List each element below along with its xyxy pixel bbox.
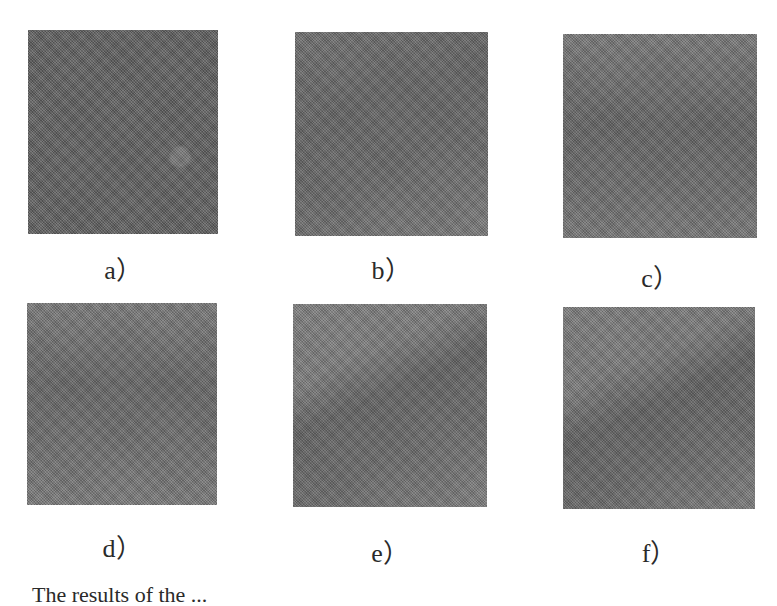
panel-e-band [293, 304, 487, 507]
panel-b [295, 32, 488, 236]
panel-a-label: a） [104, 258, 142, 284]
panel-f-label: f） [642, 541, 677, 567]
panel-e [293, 304, 487, 507]
panel-d [27, 303, 217, 505]
panel-f [563, 307, 755, 509]
panel-b-label: b） [372, 258, 411, 284]
panel-e-label: e） [371, 541, 409, 567]
panel-c-band [563, 34, 757, 238]
panel-a [28, 30, 218, 234]
panel-d-label: d） [103, 536, 142, 562]
panel-a-feature [28, 30, 218, 234]
figure-caption: The results of the ... [32, 582, 207, 606]
panel-c-label: c） [641, 266, 679, 292]
panel-d-band [27, 303, 217, 505]
panel-c [563, 34, 757, 238]
panel-f-band [563, 307, 755, 509]
panel-b-band [295, 32, 488, 236]
